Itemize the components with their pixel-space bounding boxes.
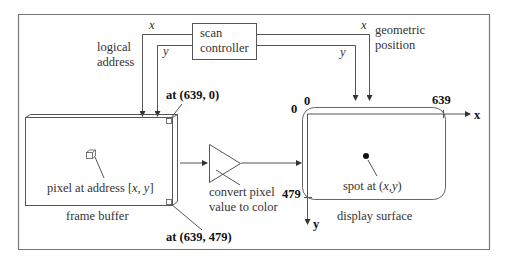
bottom-corner-pointer bbox=[171, 204, 202, 230]
spot-dot-icon bbox=[363, 153, 369, 159]
converter-triangle-icon bbox=[210, 145, 241, 183]
logical-address-label-2: address bbox=[97, 55, 135, 69]
origin-x-label: 0 bbox=[304, 94, 310, 108]
spot-label: spot at (x,y) bbox=[343, 179, 402, 193]
top-corner-pointer bbox=[171, 104, 182, 118]
converter-label-1: convert pixel bbox=[209, 185, 275, 199]
converter-pointer-line bbox=[216, 170, 240, 185]
geometric-position-label-1: geometric bbox=[375, 23, 425, 37]
signal-x-right: x bbox=[360, 18, 367, 32]
signal-y-right: y bbox=[338, 45, 346, 59]
display-surface-label: display surface bbox=[337, 209, 413, 223]
signal-x-left: x bbox=[148, 18, 155, 32]
signal-y-left: y bbox=[161, 44, 169, 58]
converter-label-2: value to color bbox=[209, 200, 279, 214]
raster-display-diagram: scan controller x y x y logical address … bbox=[0, 0, 507, 261]
geometric-x-line bbox=[257, 35, 370, 101]
y-axis-label: y bbox=[313, 217, 320, 231]
bottom-corner-label: at (639, 479) bbox=[166, 230, 232, 244]
geometric-position-label-2: position bbox=[375, 38, 416, 52]
y-max-label: 479 bbox=[282, 187, 301, 201]
scan-controller-label-1: scan bbox=[200, 26, 223, 40]
scan-controller-label-2: controller bbox=[200, 41, 249, 55]
x-axis-label: x bbox=[474, 108, 481, 122]
top-corner-label: at (639, 0) bbox=[166, 88, 219, 102]
pixel-address-label: pixel at address [x, y] bbox=[47, 181, 154, 195]
logical-address-label-1: logical bbox=[97, 40, 132, 54]
frame-buffer-label: frame buffer bbox=[66, 209, 129, 223]
origin-y-label: 0 bbox=[291, 102, 297, 116]
x-max-label: 639 bbox=[432, 93, 451, 107]
